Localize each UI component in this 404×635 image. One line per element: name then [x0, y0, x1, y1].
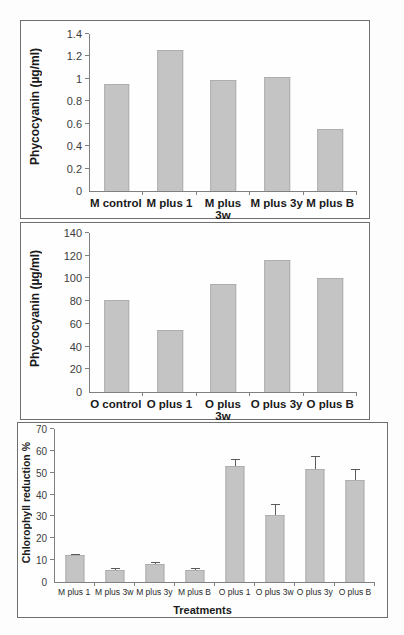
x-tick-mark	[356, 392, 357, 396]
y-axis-title: Phycocyanin (µg/ml)	[28, 48, 42, 165]
bar	[345, 480, 364, 582]
plot-area: 00.20.40.60.811.21.4	[89, 34, 357, 192]
y-tick-label: 0	[76, 185, 82, 197]
error-bar	[231, 459, 240, 467]
x-tick-mark	[214, 582, 215, 586]
y-tick-mark	[85, 33, 89, 34]
x-category-label: O plus 1	[215, 587, 255, 597]
y-tick-label: 0	[76, 386, 82, 398]
x-tick-mark	[134, 582, 135, 586]
y-tick-mark	[50, 450, 54, 451]
y-axis-title-column: Phycocyanin (µg/ml)	[21, 21, 49, 192]
y-tick-mark	[50, 515, 54, 516]
y-tick-mark	[85, 346, 89, 347]
bar	[211, 80, 237, 191]
x-tick-mark	[174, 582, 175, 586]
y-tick-mark	[50, 472, 54, 473]
y-tick-label: 80	[70, 295, 82, 307]
plot-area: 020406080100120140	[89, 233, 357, 393]
x-category-label: M plus 1	[54, 587, 94, 597]
error-bar-cap	[231, 459, 240, 460]
x-tick-mark	[334, 582, 335, 586]
bar	[225, 466, 244, 582]
x-category-label: O plus 3y	[295, 587, 335, 597]
x-category-label: M plus 3w	[196, 197, 250, 221]
bar	[157, 50, 183, 191]
x-category-label: M plus 3y	[134, 587, 174, 597]
error-bar-stem	[315, 456, 316, 469]
y-tick-label: 140	[64, 227, 82, 239]
x-category-label: O plus 3w	[255, 587, 295, 597]
x-tick-mark	[374, 582, 375, 586]
y-tick-mark	[50, 494, 54, 495]
bar-slot	[197, 34, 250, 191]
bar	[317, 129, 343, 191]
bar-slot	[304, 233, 357, 392]
x-axis-title: Treatments	[173, 604, 232, 616]
y-tick-label: 1	[76, 73, 82, 85]
bar-slot	[175, 429, 215, 582]
y-tick-label: 100	[64, 272, 82, 284]
error-bar-cap	[311, 456, 320, 457]
y-tick-label: 10	[36, 555, 47, 566]
plot-column: 00.20.40.60.811.21.4	[49, 21, 369, 192]
bar	[105, 570, 124, 582]
error-bar-stem	[235, 459, 236, 467]
error-bar-cap	[71, 554, 80, 555]
error-bar	[191, 568, 200, 570]
figure: Phycocyanin (µg/ml) 00.20.40.60.811.21.4…	[0, 0, 404, 635]
y-tick-label: 40	[36, 489, 47, 500]
bar-slot	[55, 429, 95, 582]
x-category-label: M plus B	[303, 197, 357, 209]
y-tick-label: 0	[41, 577, 47, 588]
category-labels-row: O controlO plus 1O plus 3wO plus 3yO plu…	[89, 393, 357, 419]
x-axis-title-row: Treatments	[18, 600, 387, 617]
y-tick-label: 120	[64, 250, 82, 262]
x-tick-mark	[356, 191, 357, 195]
x-category-label: M plus 3w	[94, 587, 134, 597]
error-bar-cap	[151, 562, 160, 563]
y-tick-mark	[85, 168, 89, 169]
x-category-label: O plus 3w	[196, 398, 250, 422]
x-category-label: O plus 1	[143, 398, 197, 410]
error-bar	[311, 456, 320, 469]
bar	[264, 77, 290, 191]
x-category-label: O control	[89, 398, 143, 410]
x-tick-mark	[142, 392, 143, 396]
bar	[317, 278, 343, 392]
y-tick-mark	[50, 559, 54, 560]
error-bar	[111, 568, 120, 570]
x-tick-mark	[196, 191, 197, 195]
y-tick-label: 0.6	[67, 118, 82, 130]
bar	[104, 84, 130, 191]
x-category-label: M control	[89, 197, 143, 209]
plot-row: Phycocyanin (µg/ml) 020406080100120140	[21, 223, 369, 393]
y-tick-mark	[85, 232, 89, 233]
error-bar-stem	[275, 504, 276, 515]
bar-slot	[295, 429, 335, 582]
y-tick-label: 1.2	[67, 50, 82, 62]
error-bar	[271, 504, 280, 515]
y-tick-label: 40	[70, 341, 82, 353]
bar	[104, 300, 130, 392]
bar	[305, 469, 324, 582]
bar	[185, 570, 204, 582]
plot-row: Chlorophyll reduction % 010203040506070	[18, 423, 387, 583]
bar	[157, 330, 183, 392]
error-bar	[71, 554, 80, 556]
y-tick-label: 20	[70, 363, 82, 375]
bar	[65, 555, 84, 582]
bar-slot	[197, 233, 250, 392]
chart-panel-o-phycocyanin: Phycocyanin (µg/ml) 020406080100120140 O…	[20, 222, 370, 420]
error-bar	[351, 469, 360, 480]
error-bar-cap	[111, 568, 120, 569]
bar-slot	[90, 233, 143, 392]
bar-slot	[215, 429, 255, 582]
x-category-label: M plus 1	[143, 197, 197, 209]
y-tick-mark	[85, 255, 89, 256]
y-axis-title-column: Chlorophyll reduction %	[18, 423, 34, 583]
chart-panel-m-phycocyanin: Phycocyanin (µg/ml) 00.20.40.60.811.21.4…	[20, 20, 370, 219]
x-category-label: M plus B	[174, 587, 214, 597]
plot-column: 020406080100120140	[49, 223, 369, 393]
bar-slot	[335, 429, 375, 582]
